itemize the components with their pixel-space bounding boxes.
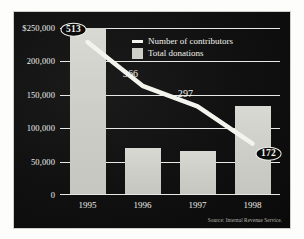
point-label: 172 xyxy=(255,146,282,160)
x-tick-label: 1995 xyxy=(79,200,97,210)
legend-label-contributors: Number of contributors xyxy=(148,36,233,48)
bar-swatch-icon xyxy=(132,48,143,59)
legend-item-contributors: Number of contributors xyxy=(132,36,233,48)
x-tick-label: 1996 xyxy=(134,200,152,210)
point-label: 366 xyxy=(123,67,139,78)
point-label: 297 xyxy=(178,88,194,99)
x-axis-line xyxy=(60,194,280,195)
x-tick-label: 1997 xyxy=(189,200,207,210)
y-tick-label: 200,000 xyxy=(27,56,55,66)
y-tick-label: 100,000 xyxy=(27,123,55,133)
y-tick-label: 50,000 xyxy=(31,157,55,167)
line-swatch-icon xyxy=(132,36,143,47)
bar xyxy=(70,28,106,195)
chart-frame: 050,000100,000150,000200,000$250,000 199… xyxy=(13,11,291,229)
source-note: Source: Internal Revenue Service. xyxy=(208,217,282,223)
y-tick-label: 150,000 xyxy=(27,90,55,100)
y-tick-label: $250,000 xyxy=(22,23,55,33)
bar xyxy=(125,148,161,195)
chart-legend: Number of contributors Total donations xyxy=(132,36,233,59)
legend-label-donations: Total donations xyxy=(148,48,204,60)
legend-item-donations: Total donations xyxy=(132,48,233,60)
x-tick-label: 1998 xyxy=(244,200,262,210)
chart-figure: 050,000100,000150,000200,000$250,000 199… xyxy=(0,0,304,239)
y-tick-label: 0 xyxy=(51,190,55,200)
bar xyxy=(180,151,216,195)
